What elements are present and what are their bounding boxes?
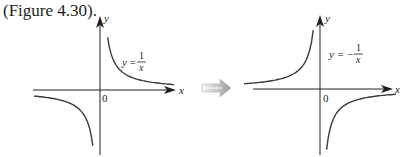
equation-denominator: x: [355, 54, 361, 65]
origin-label: 0: [102, 92, 108, 104]
equation-numerator: 1: [356, 42, 361, 53]
curve-quadrant-3: [34, 96, 93, 146]
curve-quadrant-2: [244, 30, 313, 83]
y-axis-label: y: [324, 12, 330, 24]
curve-quadrant-1: [108, 37, 174, 84]
equation-lhs: y =: [121, 56, 137, 68]
equation-lhs: y = −: [328, 48, 354, 60]
y-axis-label: y: [103, 12, 109, 24]
equation-numerator: 1: [139, 50, 144, 61]
x-axis-label: x: [178, 84, 184, 96]
equation-denominator: x: [138, 62, 144, 73]
graph-reciprocal: y x 0 y = 1 x: [33, 12, 184, 155]
curve-quadrant-4: [327, 94, 396, 149]
graph-negative-reciprocal: y x 0 y = − 1 x: [244, 12, 400, 155]
right-arrow-icon: [202, 79, 231, 97]
figure-canvas: y x 0 y = 1 x y x 0 y = − 1 x: [0, 0, 400, 157]
x-axis-label: x: [394, 83, 400, 95]
origin-label: 0: [323, 92, 329, 104]
